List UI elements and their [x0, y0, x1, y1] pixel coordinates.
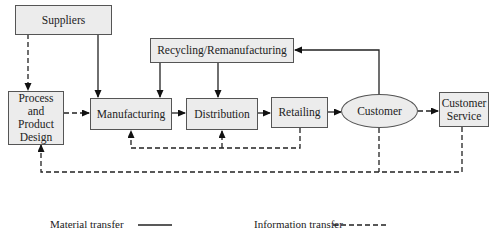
legend-information: Information transfer	[254, 218, 343, 230]
node-customer: Customer	[341, 94, 418, 128]
node-label: Process and Product Design	[9, 92, 63, 144]
edge-retailing-manufacturing	[131, 128, 300, 148]
node-label: Customer Service	[440, 97, 488, 123]
node-suppliers: Suppliers	[15, 5, 112, 35]
node-label: Retailing	[278, 106, 320, 119]
node-label: Customer	[357, 105, 402, 117]
edge-customer-recycling	[295, 50, 379, 94]
node-label: Recycling/Remanufacturing	[157, 44, 287, 57]
node-manufacturing: Manufacturing	[90, 98, 172, 130]
node-label: Manufacturing	[97, 108, 165, 121]
node-customer-service: Customer Service	[439, 92, 489, 127]
node-recycling: Recycling/Remanufacturing	[150, 38, 294, 63]
edge-service-design	[41, 127, 462, 172]
node-label: Distribution	[194, 108, 250, 121]
node-label: Suppliers	[42, 14, 85, 27]
node-process-product-design: Process and Product Design	[8, 91, 64, 145]
node-retailing: Retailing	[271, 97, 328, 128]
legend-material: Material transfer	[50, 218, 124, 230]
node-distribution: Distribution	[186, 98, 258, 130]
